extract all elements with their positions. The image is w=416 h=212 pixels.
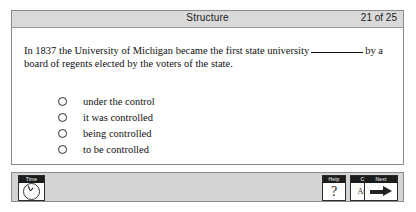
question-mark-icon: ? [331,185,337,199]
radio-button-icon[interactable] [58,129,67,138]
next-button-body [365,183,397,200]
option-label[interactable]: to be controlled [83,144,149,155]
bottom-toolbar: Time Help ? Confirm Answer Next [11,172,404,202]
radio-button-icon[interactable] [58,97,67,106]
time-button[interactable]: Time [18,175,45,201]
help-button-body: ? [323,183,345,200]
clock-icon [23,183,40,200]
help-caption: Help [323,176,345,183]
arrow-head [383,186,392,196]
option-row[interactable]: being controlled [58,127,155,140]
section-title-bar: Structure 21 of 25 [12,11,403,28]
question-counter: 21 of 25 [361,12,397,23]
arrow-shaft [370,190,384,194]
radio-button-icon[interactable] [58,145,67,154]
question-panel: Structure 21 of 25 In 1837 the Universit… [11,10,404,165]
answer-options: under the control it was controlled bein… [58,95,155,159]
option-label[interactable]: it was controlled [83,112,153,123]
next-caption: Next [365,176,397,183]
option-row[interactable]: it was controlled [58,111,155,124]
radio-button-icon[interactable] [58,113,67,122]
help-button[interactable]: Help ? [322,175,346,201]
toefl-test-window: Structure 21 of 25 In 1837 the Universit… [0,0,416,212]
answer-blank [311,52,363,53]
option-label[interactable]: being controlled [83,128,152,139]
time-caption: Time [19,176,44,183]
next-button[interactable]: Next [364,175,398,201]
option-row[interactable]: to be controlled [58,143,155,156]
page-title: Structure [12,12,403,23]
time-button-body [19,183,44,200]
option-label[interactable]: under the control [83,96,155,107]
stem-text-before: In 1837 the University of Michigan becam… [24,45,309,56]
option-row[interactable]: under the control [58,95,155,108]
question-stem: In 1837 the University of Michigan becam… [24,44,392,70]
arrow-right-icon [370,186,392,197]
